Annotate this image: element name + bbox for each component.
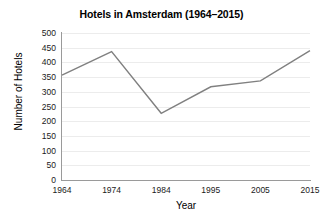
y-axis-tick-label: 0 [51,175,56,185]
y-axis-tick-label: 300 [42,87,56,97]
chart-title: Hotels in Amsterdam (1964–2015) [0,8,323,20]
x-axis-tick-label: 1995 [201,185,220,195]
x-axis-tick-label: 1974 [102,185,121,195]
y-axis-tick-label: 350 [42,72,56,82]
x-axis-tick-label: 2015 [301,185,320,195]
y-axis-tick-label: 100 [42,146,56,156]
x-axis-tick-labels: 196419741984199520052015 [62,185,310,199]
x-axis-tick-label: 1984 [152,185,171,195]
x-axis-tick-label: 2005 [251,185,270,195]
y-axis-tick-labels: 050100150200250300350400450500 [22,33,56,180]
y-axis-tick-label: 150 [42,131,56,141]
line-chart: Hotels in Amsterdam (1964–2015) Number o… [0,0,323,222]
y-axis-tick-label: 450 [42,43,56,53]
y-axis-tick-label: 250 [42,102,56,112]
gridline [62,180,310,181]
x-axis-tick-label: 1964 [53,185,72,195]
x-axis-title: Year [62,200,310,211]
plot-area [62,33,310,180]
y-axis-tick-label: 400 [42,57,56,67]
series-line [62,33,310,180]
y-axis-tick-label: 50 [47,160,56,170]
y-axis-tick-label: 500 [42,28,56,38]
y-axis-tick-label: 200 [42,116,56,126]
